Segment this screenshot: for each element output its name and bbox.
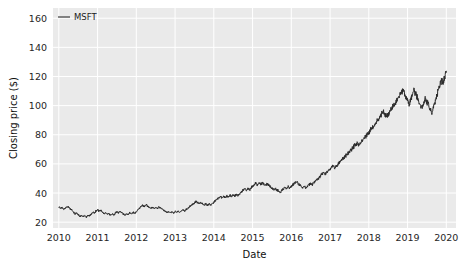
x-axis-title: Date	[243, 249, 267, 260]
x-tick-label: 2020	[434, 232, 458, 243]
x-tick-labels: 2010201120122013201420152016201720182019…	[47, 232, 459, 243]
chart-screenshot: 2010201120122013201420152016201720182019…	[0, 0, 472, 269]
y-axis-title: Closing price ($)	[8, 77, 19, 159]
x-tick-label: 2018	[357, 232, 381, 243]
y-tick-label: 140	[29, 42, 47, 53]
x-tick-label: 2016	[279, 232, 303, 243]
y-tick-label: 80	[35, 129, 47, 140]
x-tick-label: 2017	[318, 232, 342, 243]
x-tick-label: 2013	[163, 232, 187, 243]
x-tick-label: 2015	[240, 232, 264, 243]
chart-canvas: 2010201120122013201420152016201720182019…	[0, 0, 472, 269]
line-chart-figure: 2010201120122013201420152016201720182019…	[0, 0, 472, 269]
y-tick-label: 60	[35, 158, 47, 169]
plot-area-background	[53, 8, 456, 228]
y-tick-label: 100	[29, 100, 47, 111]
legend-label-msft: MSFT	[74, 12, 97, 22]
x-tick-label: 2012	[124, 232, 148, 243]
x-tick-label: 2011	[85, 232, 109, 243]
x-tick-label: 2010	[47, 232, 71, 243]
y-tick-label: 20	[35, 217, 47, 228]
y-tick-label: 120	[29, 71, 47, 82]
x-tick-label: 2014	[202, 232, 226, 243]
y-tick-label: 160	[29, 13, 47, 24]
x-tick-label: 2019	[395, 232, 419, 243]
y-tick-label: 40	[35, 188, 47, 199]
